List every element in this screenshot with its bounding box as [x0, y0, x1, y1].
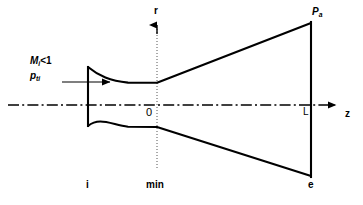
nozzle-length-label: L	[303, 107, 309, 117]
origin-label: 0	[146, 107, 152, 118]
station-inlet-label: i	[86, 180, 89, 190]
station-exit-label: e	[308, 180, 314, 190]
station-throat-label: min	[146, 180, 164, 190]
inlet-total-pressure-label: pti	[30, 71, 40, 83]
r-axis-label: r	[154, 6, 158, 16]
nozzle-diagram: Mi<1 pti Pa r z 0 L i min e	[0, 0, 363, 205]
upper-wall-contour	[88, 23, 311, 83]
ambient-pressure-symbol: P	[312, 6, 319, 17]
ambient-pressure-label: Pa	[312, 7, 322, 19]
z-axis-label: z	[345, 109, 350, 119]
lower-wall-contour	[88, 122, 311, 176]
total-pressure-subscript: ti	[36, 75, 40, 82]
inlet-mach-number-label: Mi<1	[30, 56, 52, 68]
mach-relation: <1	[40, 55, 51, 66]
ambient-pressure-subscript: a	[319, 11, 323, 18]
nozzle-diagram-canvas	[0, 0, 363, 205]
